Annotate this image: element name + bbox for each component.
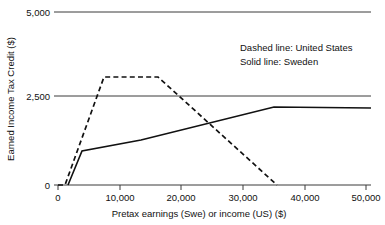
legend-item-united-states: Dashed line: United States [240,42,353,53]
legend-item-sweden: Solid line: Sweden [240,56,318,67]
xtick-label-50000: 50,000 [351,192,380,203]
x-axis-title: Pretax earnings (Swe) or income (US) ($) [112,208,287,219]
xtick-label-20000: 20,000 [166,192,195,203]
chart-container: 5,000 2,500 0 0 10,000 20,000 30,000 40,… [0,0,385,225]
xtick-label-40000: 40,000 [290,192,319,203]
xtick-label-30000: 30,000 [228,192,257,203]
ytick-label-0: 0 [45,180,50,191]
ytick-label-2500: 2,500 [26,91,50,102]
xtick-label-0: 0 [55,192,60,203]
earned-income-tax-credit-chart: 5,000 2,500 0 0 10,000 20,000 30,000 40,… [0,0,385,225]
ytick-label-5000: 5,000 [26,7,50,18]
y-axis-title: Earned Income Tax Credit ($) [5,37,16,161]
xtick-label-10000: 10,000 [105,192,134,203]
